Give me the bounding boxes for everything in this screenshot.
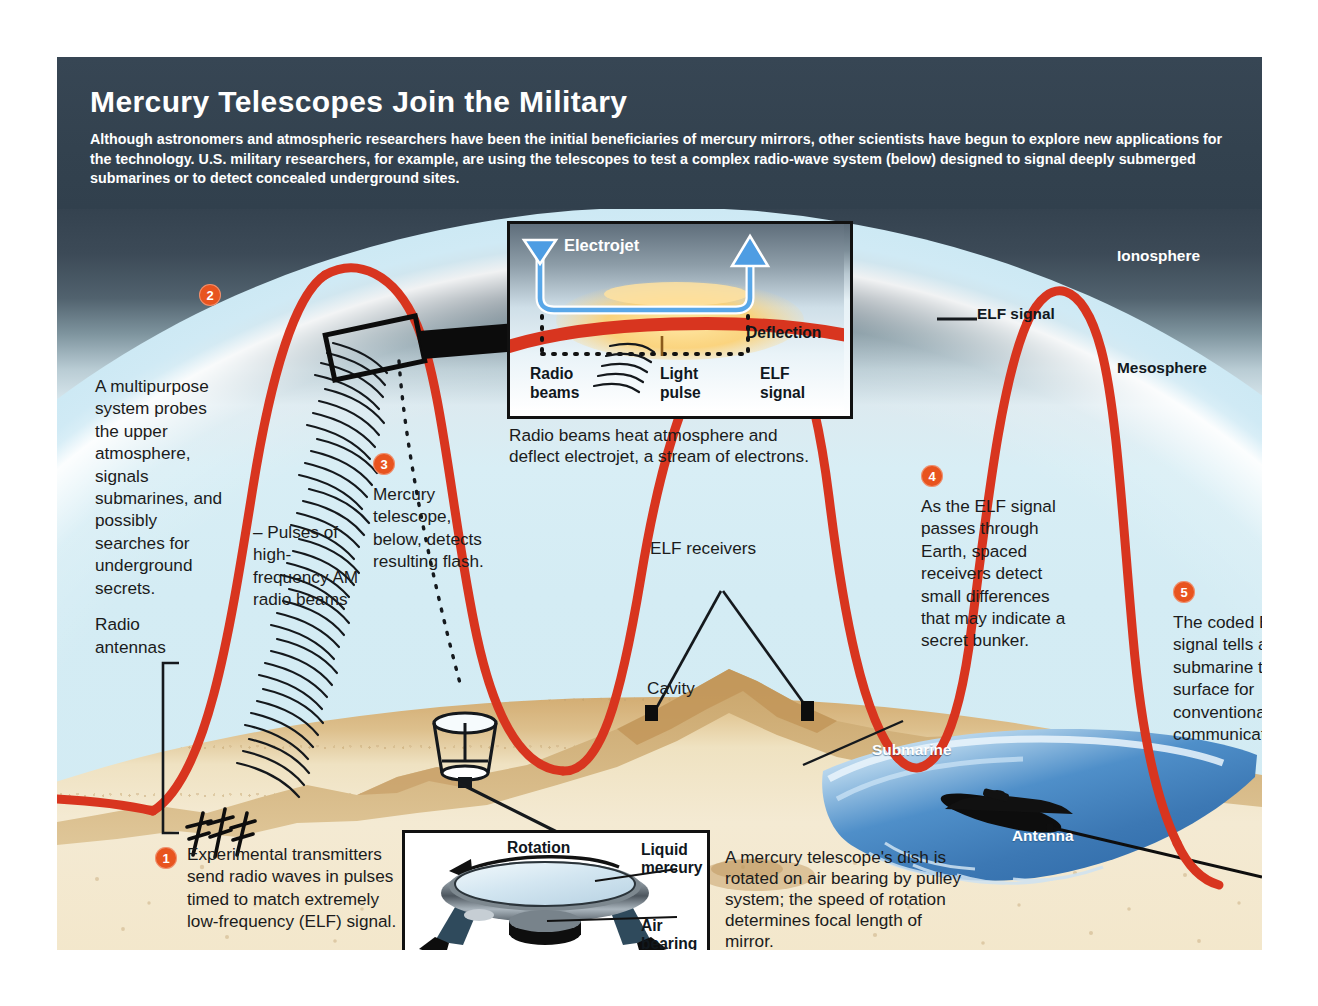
label-ionosphere: Ionosphere bbox=[1117, 247, 1200, 265]
inset-electrojet-caption: Radio beams heat atmosphere and deflect … bbox=[509, 425, 809, 467]
inset-electrojet: Electrojet Deflection Radio beams Light … bbox=[507, 221, 853, 419]
inset-label-air-bearing: Air bearing bbox=[641, 917, 697, 950]
figure-frame: Mercury Telescopes Join the Military Alt… bbox=[57, 57, 1262, 950]
step-badge-4: 4 bbox=[921, 465, 943, 487]
inset-label-elf-signal: ELF signal bbox=[760, 364, 804, 402]
step-badge-5: 5 bbox=[1173, 581, 1195, 603]
inset-label-liquid-mercury: Liquid mercury bbox=[641, 841, 703, 877]
inset-mercury-telescope-caption: A mercury telescope's dish is rotated on… bbox=[725, 847, 975, 950]
inset-label-radio-beams-text: Radio beams bbox=[530, 364, 590, 402]
inset-label-light-pulse: Light pulse bbox=[660, 364, 712, 402]
annotation-elf-signal: ELF signal bbox=[977, 305, 1055, 323]
inset-label-liquid-mercury-text: Liquid mercury bbox=[641, 841, 703, 877]
inset-label-elf-signal-text: ELF signal bbox=[760, 364, 804, 402]
inset-mercury-telescope: Rotation Liquid mercury Air bearing bbox=[402, 830, 710, 950]
step-badge-3: 3 bbox=[373, 453, 395, 475]
step-text-4: As the ELF signal passes through Earth, … bbox=[921, 495, 1073, 652]
annotation-radio-antennas: Radio antennas bbox=[95, 613, 205, 659]
inset-label-light-pulse-text: Light pulse bbox=[660, 364, 712, 402]
step-text-1: Experimental transmitters send radio wav… bbox=[187, 843, 405, 933]
page-subtitle: Although astronomers and atmospheric res… bbox=[90, 130, 1230, 189]
step-badge-1: 1 bbox=[155, 847, 177, 869]
infographic-root: Mercury Telescopes Join the Military Alt… bbox=[0, 0, 1318, 1006]
label-mesosphere: Mesosphere bbox=[1117, 359, 1207, 377]
annotation-antenna: Antenna bbox=[1012, 827, 1074, 845]
annotation-cavity: Cavity bbox=[647, 677, 695, 699]
step-text-3: Mercury telescope, below, detects result… bbox=[373, 483, 501, 573]
annotation-submarine: Submarine bbox=[872, 741, 952, 759]
annotation-multipurpose-system: A multipurpose system probes the upper a… bbox=[95, 375, 223, 599]
annotation-elf-receivers: ELF receivers bbox=[648, 537, 758, 559]
radio-antennas-bracket bbox=[153, 661, 193, 837]
inset-label-deflection: Deflection bbox=[746, 324, 821, 342]
inset-label-radio-beams: Radio beams bbox=[530, 364, 590, 402]
page-title: Mercury Telescopes Join the Military bbox=[90, 85, 627, 119]
step-badge-2: 2 bbox=[199, 284, 221, 306]
inset-label-air-bearing-text: Air bearing bbox=[641, 917, 697, 950]
elf-receiver-marker-left bbox=[645, 705, 658, 721]
annotation-pulses-of-radio: – Pulses of high-frequency AM radio beam… bbox=[253, 521, 365, 611]
elf-signal-pointer bbox=[935, 309, 981, 329]
step-text-5: The coded ELF signal tells a submarine t… bbox=[1173, 611, 1262, 745]
inset-label-electrojet: Electrojet bbox=[564, 236, 639, 255]
inset-label-rotation: Rotation bbox=[507, 839, 570, 857]
